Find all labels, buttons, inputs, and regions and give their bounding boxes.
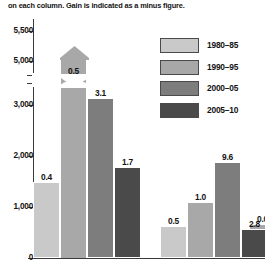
legend-label: 1990–95 [207, 62, 238, 72]
axis-break-notch [60, 74, 87, 88]
legend-item: 1980–85 [160, 38, 263, 60]
bar-value-label: 3.1 [95, 88, 106, 98]
legend-item: 1990–95 [160, 60, 263, 82]
bar-value-label: 1.7 [122, 157, 133, 167]
y-axis-tick-label: 2,000 [7, 151, 33, 160]
bar-value-label: 2.8 [249, 219, 260, 229]
chart-legend: 1980–851990–952000–052005–10 [160, 38, 263, 124]
bar: 2.8 [241, 229, 265, 258]
bar: 0.5 [60, 59, 87, 258]
bar-value-label: 9.6 [222, 152, 233, 162]
bar-value-label: 0.5 [168, 216, 179, 226]
bar: 0.5 [160, 226, 187, 258]
legend-label: 1980–85 [207, 40, 238, 50]
y-axis-tick-label: 3,000 [7, 100, 33, 109]
bar-value-label: 1.0 [195, 192, 206, 202]
bar: 9.6 [214, 162, 241, 258]
y-axis-break-marker [27, 73, 35, 87]
chart-caption: on each column. Gain is indicated as a m… [8, 1, 260, 10]
legend-label: 2000–05 [207, 83, 238, 93]
bar: 3.1 [87, 98, 114, 258]
bar-overflow-arrow-icon [60, 46, 87, 60]
chart-plot-area: 5,5005,0003,0002,0001,0000 0.40.50.30.51… [0, 12, 265, 265]
legend-swatch [160, 60, 199, 75]
bar: 0.4 [33, 182, 60, 258]
bar-value-label: 0.4 [41, 172, 52, 182]
y-axis-tick-label: 1,000 [7, 202, 33, 211]
y-axis-tick-label: 0 [7, 253, 33, 262]
bar: 1.7 [114, 167, 141, 258]
bar-value-label: 0.5 [68, 66, 79, 76]
legend-swatch [160, 38, 199, 53]
legend-swatch [160, 103, 199, 118]
legend-swatch [160, 81, 199, 96]
legend-item: 2005–10 [160, 103, 263, 125]
x-axis-baseline [33, 258, 265, 259]
y-axis-tick-label: 5,000 [7, 56, 33, 65]
legend-label: 2005–10 [207, 105, 238, 115]
y-axis-tick-label: 5,500 [7, 26, 33, 35]
bar: 1.0 [187, 202, 214, 258]
legend-item: 2000–05 [160, 81, 263, 103]
